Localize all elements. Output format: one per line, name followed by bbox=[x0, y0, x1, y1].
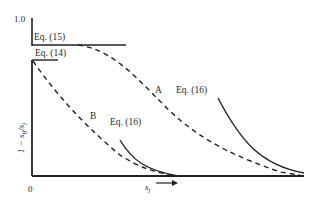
y-tick-1: 1.0 bbox=[14, 14, 26, 24]
svg-text:1 − sij/sj: 1 − sij/sj bbox=[16, 123, 27, 153]
x-axis-label: sj bbox=[145, 182, 151, 193]
eq16-curve-b bbox=[120, 140, 178, 176]
curve-a bbox=[78, 45, 300, 175]
y-axis-label: 1 − sij/sj bbox=[16, 123, 27, 153]
origin-label: 0 bbox=[28, 184, 33, 194]
arrow-head-icon bbox=[172, 180, 178, 186]
curve-a-label: A bbox=[155, 85, 162, 95]
chart: 1.0 0 Eq. (15) Eq. (14) A B Eq. (16) Eq.… bbox=[0, 0, 334, 202]
eq16-b-label: Eq. (16) bbox=[110, 117, 141, 128]
eq15-label: Eq. (15) bbox=[34, 32, 65, 43]
eq16-a-label: Eq. (16) bbox=[176, 85, 207, 96]
eq14-label: Eq. (14) bbox=[35, 48, 66, 59]
curve-b-label: B bbox=[90, 111, 96, 121]
curve-b bbox=[33, 61, 170, 175]
eq16-curve-a bbox=[218, 98, 304, 173]
